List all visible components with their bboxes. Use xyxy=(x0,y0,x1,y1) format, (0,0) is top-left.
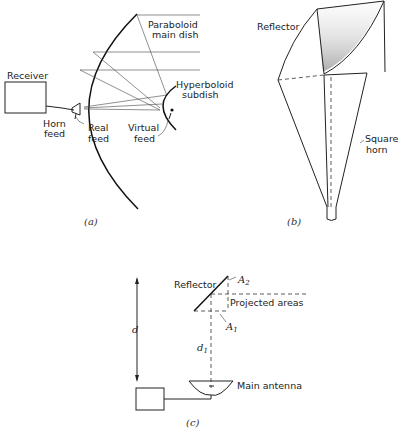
caption-c: (c) xyxy=(186,417,200,428)
label-real-feed: feed xyxy=(88,133,109,144)
real-feed-leader xyxy=(76,117,84,124)
label-horn-feed: feed xyxy=(44,128,65,139)
square-horn-leader xyxy=(360,140,364,143)
label-receiver: Receiver xyxy=(7,70,48,81)
label-virtual: Virtual xyxy=(128,122,159,133)
label-square: Square xyxy=(365,133,399,144)
virtual-feed-leader xyxy=(158,120,168,136)
panel-a-cassegrain: Paraboloid main dish Hyperboloid subdish… xyxy=(5,14,234,227)
receiver-box xyxy=(5,82,46,113)
label-d: d xyxy=(132,324,138,335)
reflector-right-edge xyxy=(384,1,385,72)
feed-ray-3 xyxy=(84,109,160,110)
receiver-cable xyxy=(164,395,211,399)
horn-aperture-edge xyxy=(324,73,367,75)
label-main-dish: main dish xyxy=(152,29,198,40)
virtual-feed-point xyxy=(170,108,173,111)
caption-b: (b) xyxy=(287,216,301,227)
reflected-ray-2 xyxy=(93,52,160,108)
reflector-left-curve xyxy=(278,9,317,80)
a2-leader xyxy=(229,277,236,280)
waveguide xyxy=(46,106,74,110)
label-a2: A2 xyxy=(237,274,250,287)
horn-aperture-hidden-edge xyxy=(278,75,324,80)
arrow-up-head xyxy=(135,277,139,284)
feed-ray-2 xyxy=(84,104,162,108)
label-main-antenna: Main antenna xyxy=(237,380,302,391)
label-projected-areas: Projected areas xyxy=(230,297,304,308)
reflector-shaded-surface xyxy=(317,1,383,72)
hyperboloid-subdish xyxy=(163,86,176,130)
antenna-diagram-figure: Paraboloid main dish Hyperboloid subdish… xyxy=(0,0,400,433)
label-real: Real xyxy=(88,122,108,133)
label-horn-b: horn xyxy=(366,144,388,155)
label-subdish: subdish xyxy=(182,89,219,100)
horn-throat xyxy=(327,207,336,221)
label-virtual-feed: feed xyxy=(134,133,155,144)
main-antenna-dish xyxy=(189,381,233,395)
label-d1: d1 xyxy=(197,342,208,355)
feed-ray-1 xyxy=(84,95,167,107)
panel-b-horn-reflector: Reflector Square horn (b) xyxy=(257,1,399,227)
caption-a: (a) xyxy=(84,216,98,227)
label-reflector-b: Reflector xyxy=(257,21,300,32)
panel-c-periscope: Reflector A2 Projected areas A1 d d1 Mai… xyxy=(132,274,308,428)
receiver-box-c xyxy=(136,388,164,410)
paraboloid-main-dish xyxy=(89,14,138,209)
real-feed-marker xyxy=(75,114,76,119)
arrow-down-head xyxy=(135,375,139,382)
horn-feed xyxy=(72,103,80,115)
virtual-feed-arrow xyxy=(169,113,171,119)
reflected-ray-3 xyxy=(80,70,160,110)
horn-center-side xyxy=(324,75,328,207)
horn-left-side xyxy=(278,80,327,207)
label-reflector-c: Reflector xyxy=(174,279,217,290)
label-a1: A1 xyxy=(225,321,238,334)
horn-right-side xyxy=(336,73,367,207)
